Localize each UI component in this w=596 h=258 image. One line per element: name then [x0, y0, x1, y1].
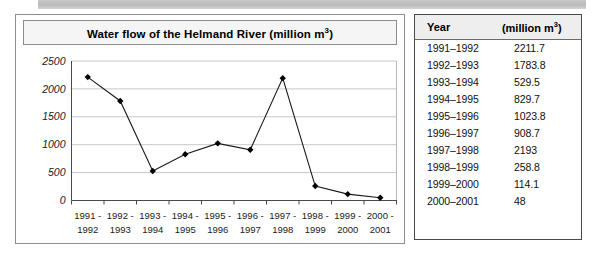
table-header: Year (million m3) — [415, 15, 581, 39]
x-tick-label: 1998 - — [302, 210, 329, 221]
x-tick-label: 1997 - — [269, 210, 296, 221]
cell-year: 1997–1998 — [415, 142, 498, 159]
table-row: 1997–19982193 — [415, 142, 581, 159]
data-table: Year (million m3) 1991–19922211.71992–19… — [415, 15, 581, 210]
cell-year: 1998–1999 — [415, 159, 498, 176]
x-tick-marks — [72, 201, 397, 205]
x-tick-label: 1994 — [142, 224, 163, 235]
x-tick-label: 1995 - — [204, 210, 231, 221]
cell-year: 1996–1997 — [415, 125, 498, 142]
table-header-row: Year (million m3) — [415, 15, 581, 39]
y-tick-label: 1000 — [42, 138, 66, 150]
y-tick-label: 2000 — [41, 83, 66, 95]
y-tick-label: 2500 — [41, 55, 66, 67]
y-tick-label: 1500 — [42, 110, 66, 122]
table-row: 1996–1997908.7 — [415, 125, 581, 142]
data-point-marker — [247, 147, 253, 153]
y-tick-label: 0 — [60, 194, 66, 206]
gridlines — [72, 61, 397, 201]
column-header-year: Year — [415, 15, 498, 39]
cell-value: 908.7 — [498, 125, 581, 142]
x-tick-label: 1992 - — [107, 210, 134, 221]
x-tick-label: 1998 — [272, 224, 293, 235]
table-row: 1995–19961023.8 — [415, 108, 581, 125]
line-chart-svg: 05001000150020002500 1991 -19921992 -199… — [16, 15, 406, 245]
x-tick-label: 1992 — [77, 224, 98, 235]
column-header-value-prefix: (million m — [502, 22, 554, 34]
table-row: 1994–1995829.7 — [415, 91, 581, 108]
x-tick-label: 1996 - — [237, 210, 264, 221]
data-table-panel: Year (million m3) 1991–19922211.71992–19… — [414, 14, 582, 240]
cell-value: 1023.8 — [498, 108, 581, 125]
x-tick-label: 1994 - — [172, 210, 199, 221]
data-markers — [85, 74, 384, 201]
cell-value: 114.1 — [498, 176, 581, 193]
cell-year: 1994–1995 — [415, 91, 498, 108]
x-tick-label: 1993 - — [139, 210, 166, 221]
x-tick-label: 1997 — [240, 224, 261, 235]
cell-value: 1783.8 — [498, 57, 581, 74]
x-tick-label: 1999 - — [334, 210, 361, 221]
table-row: 2000–200148 — [415, 193, 581, 210]
cell-value: 2193 — [498, 142, 581, 159]
y-tick-label: 500 — [48, 166, 66, 178]
cell-year: 1993–1994 — [415, 74, 498, 91]
table-row: 1992–19931783.8 — [415, 57, 581, 74]
x-tick-label: 1996 — [207, 224, 228, 235]
top-grey-band — [38, 0, 586, 9]
axes — [72, 61, 398, 201]
cell-year: 2000–2001 — [415, 193, 498, 210]
x-tick-label: 2000 - — [367, 210, 394, 221]
cell-value: 529.5 — [498, 74, 581, 91]
x-tick-label: 2001 — [370, 224, 391, 235]
table-row: 1999–2000114.1 — [415, 176, 581, 193]
x-tick-label: 1999 — [305, 224, 326, 235]
x-tick-label: 2000 — [337, 224, 358, 235]
data-point-marker — [182, 151, 188, 157]
x-tick-labels: 1991 -19921992 -19931993 -19941994 -1995… — [74, 210, 393, 235]
cell-value: 48 — [498, 193, 581, 210]
x-tick-label: 1993 — [110, 224, 131, 235]
table-row: 1993–1994529.5 — [415, 74, 581, 91]
data-point-marker — [280, 75, 286, 81]
plot-area: 05001000150020002500 1991 -19921992 -199… — [16, 15, 406, 245]
cell-value: 2211.7 — [498, 39, 581, 57]
cell-year: 1991–1992 — [415, 39, 498, 57]
x-tick-label: 1995 — [175, 224, 196, 235]
data-line — [88, 77, 381, 198]
table-row: 1998–1999258.8 — [415, 159, 581, 176]
cell-value: 258.8 — [498, 159, 581, 176]
data-point-marker — [150, 168, 156, 174]
y-tick-labels: 05001000150020002500 — [41, 55, 66, 207]
cell-value: 829.7 — [498, 91, 581, 108]
table-row: 1991–19922211.7 — [415, 39, 581, 57]
cell-year: 1995–1996 — [415, 108, 498, 125]
column-header-value: (million m3) — [498, 15, 581, 39]
data-point-marker — [312, 183, 318, 189]
chart-panel: Water flow of the Helmand River (million… — [15, 14, 405, 244]
x-tick-label: 1991 - — [74, 210, 101, 221]
data-point-marker — [215, 140, 221, 146]
data-point-marker — [345, 191, 351, 197]
cell-year: 1999–2000 — [415, 176, 498, 193]
table-body: 1991–19922211.71992–19931783.81993–19945… — [415, 39, 581, 210]
column-header-value-suffix: ) — [558, 22, 562, 34]
cell-year: 1992–1993 — [415, 57, 498, 74]
